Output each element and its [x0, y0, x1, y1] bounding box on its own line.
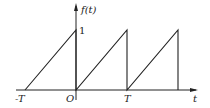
tick-label-t: T	[124, 94, 131, 104]
origin-label: O	[66, 94, 74, 104]
x-axis-arrow-icon	[190, 88, 198, 92]
tick-label-neg-t: -T	[15, 94, 25, 104]
sawtooth-waveform	[25, 30, 178, 90]
y-axis-label: f(t)	[81, 5, 97, 15]
x-axis-label: t	[193, 94, 197, 104]
sawtooth-diagram: f(t) 1 -T O T t	[0, 0, 210, 108]
peak-value-label: 1	[79, 26, 85, 36]
waveform-plot	[0, 0, 210, 108]
y-axis-arrow-icon	[74, 3, 78, 11]
